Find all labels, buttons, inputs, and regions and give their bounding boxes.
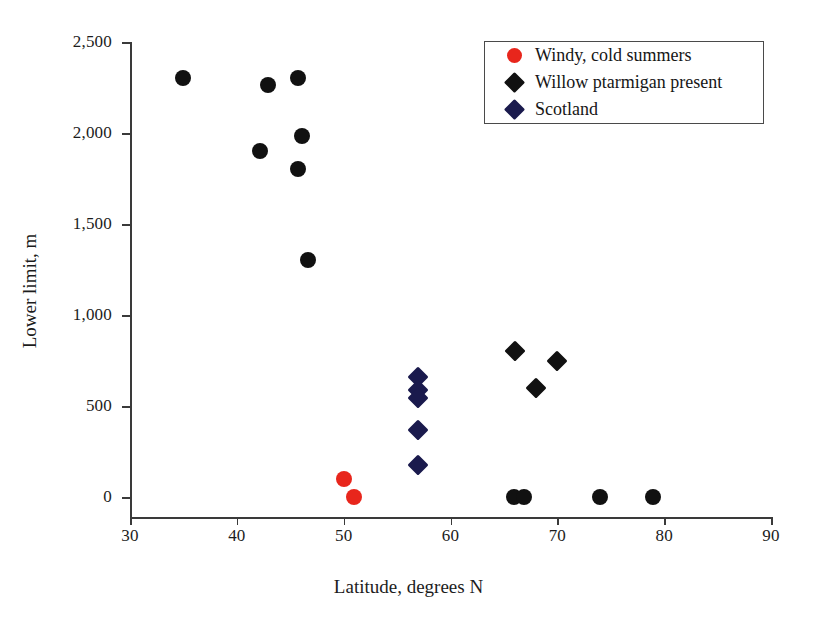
legend-item[interactable]: Windy, cold summers	[485, 42, 763, 69]
data-point	[504, 341, 525, 362]
legend-item[interactable]: Scotland	[485, 96, 763, 123]
legend-circle-icon	[507, 48, 522, 63]
data-point	[336, 471, 352, 487]
data-point	[290, 161, 306, 177]
data-point	[408, 419, 429, 440]
data-point	[300, 252, 316, 268]
data-point	[346, 489, 362, 505]
data-point	[175, 70, 191, 86]
data-point	[294, 128, 310, 144]
legend-item-label: Willow ptarmigan present	[535, 72, 722, 93]
data-point	[592, 489, 608, 505]
data-point	[260, 77, 276, 93]
data-point	[547, 350, 568, 371]
data-point	[645, 489, 661, 505]
data-point	[525, 377, 546, 398]
legend-diamond-icon	[504, 99, 525, 120]
data-point	[252, 143, 268, 159]
data-point	[290, 70, 306, 86]
legend-item[interactable]: Willow ptarmigan present	[485, 69, 763, 96]
data-point	[408, 455, 429, 476]
legend-diamond-icon	[504, 72, 525, 93]
scatter-chart: 05001,0001,5002,0002,500 30405060708090 …	[0, 0, 817, 623]
legend-item-label: Scotland	[535, 99, 598, 120]
data-point	[516, 489, 532, 505]
legend-item-label: Windy, cold summers	[535, 45, 692, 66]
chart-legend: Windy, cold summersWillow ptarmigan pres…	[484, 41, 764, 124]
